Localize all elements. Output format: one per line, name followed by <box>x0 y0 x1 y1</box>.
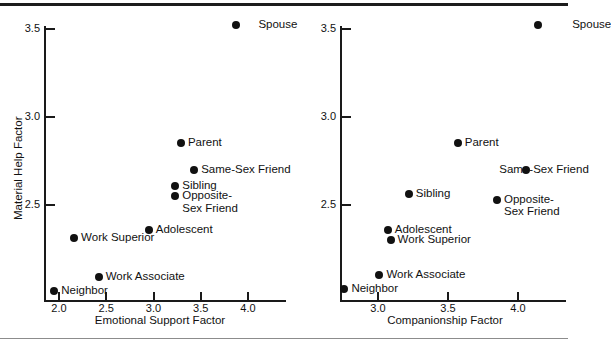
y-tick-label: 3.0 <box>304 111 336 122</box>
data-point-label: Sibling <box>416 187 451 200</box>
data-point <box>171 192 179 200</box>
data-point-label: Work Associate <box>106 270 185 283</box>
x-tick-label: 4.0 <box>232 303 264 314</box>
y-tick-label: 3.5 <box>304 23 336 34</box>
data-point-label: Opposite- Sex Friend <box>504 193 560 218</box>
data-point <box>454 139 462 147</box>
x-tick-mark <box>58 292 60 300</box>
x-tick-label: 4.0 <box>502 303 534 314</box>
x-tick-mark <box>153 292 155 300</box>
data-point <box>384 226 392 234</box>
data-point-label: Opposite- Sex Friend <box>182 189 238 214</box>
x-tick-mark <box>247 292 249 300</box>
data-point <box>493 196 501 204</box>
x-axis-title-left: Emotional Support Factor <box>60 314 260 326</box>
x-axis-title-right: Companionship Factor <box>345 314 545 326</box>
y-tick-mark <box>342 116 351 118</box>
y-tick-mark <box>46 204 55 206</box>
x-tick-label: 2.0 <box>43 303 75 314</box>
y-tick-mark <box>46 116 55 118</box>
data-point <box>405 190 413 198</box>
y-tick-label: 2.5 <box>304 199 336 210</box>
data-point-label: Work Superior <box>398 233 471 246</box>
scatter-panel-right: 2.53.03.53.03.54.0 SpouseParentSame-Sex … <box>290 0 568 348</box>
y-tick-mark <box>342 28 351 30</box>
y-tick-mark <box>46 28 55 30</box>
data-point-label: Parent <box>465 136 499 149</box>
x-tick-mark <box>447 292 449 300</box>
data-point <box>387 236 395 244</box>
y-axis-line-right <box>340 26 342 302</box>
data-point <box>171 182 179 190</box>
data-point-label: Spouse <box>451 18 611 31</box>
x-tick-mark <box>517 292 519 300</box>
y-axis-line-left <box>44 26 46 302</box>
data-point-label: Work Associate <box>386 268 465 281</box>
data-point-label: Same-Sex Friend <box>429 163 589 176</box>
x-tick-label: 3.5 <box>185 303 217 314</box>
data-point <box>375 271 383 279</box>
data-point-label: Neighbor <box>61 284 108 297</box>
data-point-label: Neighbor <box>351 282 398 295</box>
x-tick-label: 2.5 <box>90 303 122 314</box>
data-point-label: Adolescent <box>156 223 213 236</box>
data-point-label: Spouse <box>137 18 297 31</box>
data-point <box>177 139 185 147</box>
scatter-panel-left: 2.53.03.52.02.53.03.54.0 SpouseParentSam… <box>0 0 290 348</box>
data-point <box>340 285 348 293</box>
y-tick-label: 3.5 <box>8 23 40 34</box>
data-point <box>70 234 78 242</box>
data-point <box>95 273 103 281</box>
data-point-label: Work Superior <box>81 231 154 244</box>
x-tick-label: 3.0 <box>362 303 394 314</box>
y-tick-mark <box>342 204 351 206</box>
x-tick-label: 3.5 <box>432 303 464 314</box>
data-point <box>190 166 198 174</box>
x-tick-label: 3.0 <box>138 303 170 314</box>
data-point-label: Parent <box>188 136 222 149</box>
data-point-label: Same-Sex Friend <box>201 163 290 176</box>
y-axis-title-left: Material Help Factor <box>12 116 24 220</box>
x-tick-mark <box>200 292 202 300</box>
